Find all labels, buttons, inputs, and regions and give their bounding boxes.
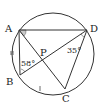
circle-geometry-diagram: A D B C P 58° 35° (0, 0, 106, 108)
point-label-P: P (40, 47, 47, 58)
point-label-B: B (6, 76, 13, 87)
point-label-D: D (90, 23, 98, 34)
angle-label-58: 58° (21, 59, 35, 68)
segment-DC (65, 30, 87, 89)
angle-label-35: 35° (67, 46, 81, 55)
angle-D-marker (81, 34, 84, 37)
segment-AB (19, 30, 20, 75)
point-label-C: C (62, 93, 70, 104)
circle (12, 13, 94, 95)
point-label-A: A (4, 23, 13, 34)
